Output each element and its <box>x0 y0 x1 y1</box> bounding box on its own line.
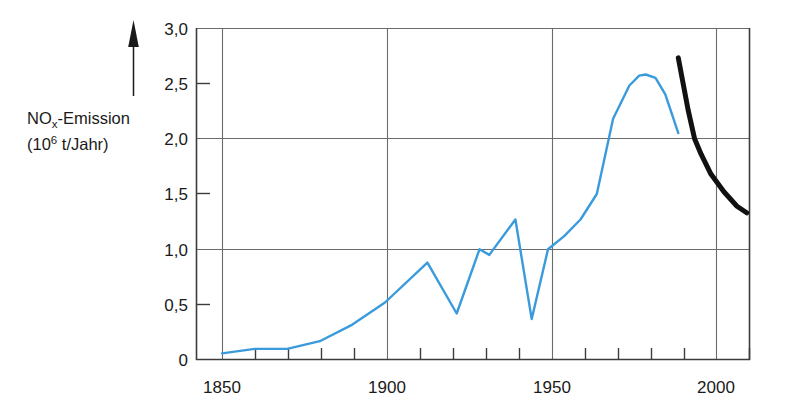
y-axis-label-line2: (106 t/Jahr) <box>27 134 109 153</box>
ytick-label-2_0: 2,0 <box>164 130 188 149</box>
ytick-label-1_0: 1,0 <box>164 241 188 260</box>
ytick-label-3_0: 3,0 <box>164 20 188 39</box>
xtick-label-1900: 1900 <box>368 378 406 397</box>
chart-root: NOx-Emission (106 t/Jahr) 3,0 2,5 2,0 1,… <box>0 0 788 416</box>
y-axis-arrow-icon <box>128 20 139 96</box>
ytick-label-2_5: 2,5 <box>164 75 188 94</box>
xtick-label-1950: 1950 <box>533 378 571 397</box>
ytick-label-0: 0 <box>179 351 188 370</box>
xtick-label-1850: 1850 <box>203 378 241 397</box>
y-axis-label-line1: NOx-Emission <box>27 109 130 130</box>
xtick-label-2000: 2000 <box>697 378 735 397</box>
plot-background <box>196 28 750 360</box>
ytick-label-0_5: 0,5 <box>164 296 188 315</box>
nox-emission-line-chart: NOx-Emission (106 t/Jahr) 3,0 2,5 2,0 1,… <box>0 0 788 416</box>
ytick-label-1_5: 1,5 <box>164 185 188 204</box>
